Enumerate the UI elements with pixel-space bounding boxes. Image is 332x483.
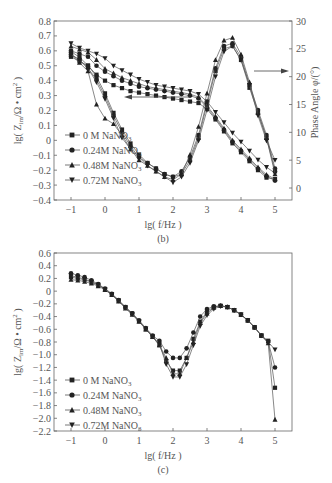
y-tick-label: −1.6 xyxy=(33,387,51,398)
y-tick-label: 0 xyxy=(46,286,51,297)
circle-marker xyxy=(273,365,278,370)
circle-marker xyxy=(205,307,210,312)
legend-item: 0.48M NaNO3 xyxy=(65,160,142,173)
y-right-tick-label: 20 xyxy=(296,71,306,82)
x-tick-label: 0 xyxy=(103,204,108,215)
series-line xyxy=(71,276,275,377)
y-tick-label: 0 xyxy=(46,135,51,146)
y-tick-label: −0.2 xyxy=(33,165,51,176)
triangle-up-marker xyxy=(205,91,210,96)
triangle-down-marker xyxy=(69,41,74,46)
y-tick-label: −0.6 xyxy=(33,324,51,335)
x-axis-label: lg( f/Hz ) xyxy=(144,219,181,231)
figure-caption: (c) xyxy=(157,464,168,476)
x-axis-label: lg( f/Hz ) xyxy=(144,450,181,462)
y-tick-label: −0.4 xyxy=(33,311,51,322)
figure-canvas: −10123450.80.70.60.50.40.30.20.10−0.1−0.… xyxy=(0,0,332,483)
series-triangle-down xyxy=(69,41,278,176)
square-marker xyxy=(111,83,115,87)
legend-label: 0.48M NaNO3 xyxy=(83,160,142,173)
square-marker xyxy=(196,101,200,105)
y-tick-label: 0.8 xyxy=(39,16,52,27)
square-marker xyxy=(128,89,132,93)
y-tick-label: 0.4 xyxy=(39,75,52,86)
legend-item: 0.24M NaNO3 xyxy=(65,145,142,158)
series-line xyxy=(71,43,275,177)
triangle-down-marker xyxy=(179,175,184,180)
circle-marker xyxy=(69,392,74,397)
triangle-down-marker xyxy=(128,73,133,78)
legend-label: 0.72M NaNO3 xyxy=(83,175,142,188)
triangle-up-marker xyxy=(213,57,218,62)
x-tick-label: 3 xyxy=(205,204,210,215)
legend-item: 0.72M NaNO3 xyxy=(65,420,142,433)
circle-marker xyxy=(69,147,74,152)
x-tick-label: 5 xyxy=(273,435,278,446)
triangle-up-marker xyxy=(120,75,125,80)
y-tick-label: −2.0 xyxy=(33,413,51,424)
chart-b: −10123450.80.70.60.50.40.30.20.10−0.1−0.… xyxy=(11,16,321,246)
x-tick-label: 4 xyxy=(239,435,244,446)
square-marker xyxy=(137,91,141,95)
y-right-axis-label: Phase Angle φ/(°) xyxy=(309,67,321,138)
triangle-up-marker xyxy=(103,116,108,121)
circle-marker xyxy=(171,356,176,361)
y-tick-label: 0.2 xyxy=(39,273,52,284)
y-tick-label: −0.2 xyxy=(33,298,51,309)
triangle-down-marker xyxy=(273,348,278,353)
y-right-tick-label: 25 xyxy=(296,43,306,54)
legend-item: 0.24M NaNO3 xyxy=(65,390,142,403)
y-tick-label: −0.4 xyxy=(33,195,51,206)
legend-label: 0.24M NaNO3 xyxy=(83,390,142,403)
y-tick-label: 0.6 xyxy=(39,248,52,259)
square-marker xyxy=(103,79,107,83)
legend-item: 0 M NaNO3 xyxy=(65,375,132,388)
triangle-up-marker xyxy=(111,71,116,76)
y-axis-label: lg( Zim/Ω • cm2 ) xyxy=(11,308,25,375)
y-tick-label: 0.6 xyxy=(39,45,52,56)
x-tick-label: 3 xyxy=(205,435,210,446)
y-tick-label: 0.5 xyxy=(39,60,52,71)
x-tick-label: 0 xyxy=(103,435,108,446)
legend-label: 0 M NaNO3 xyxy=(83,130,132,143)
y-tick-label: 0.2 xyxy=(39,105,52,116)
triangle-down-marker xyxy=(184,362,189,367)
y-tick-label: 0.4 xyxy=(39,260,52,271)
square-marker xyxy=(273,386,277,390)
series-line xyxy=(71,273,275,367)
triangle-up-marker xyxy=(94,102,99,107)
y-tick-label: −1.4 xyxy=(33,375,51,386)
triangle-down-marker xyxy=(120,68,125,73)
y-right-tick-label: 0 xyxy=(296,183,301,194)
square-marker xyxy=(70,378,75,383)
square-marker xyxy=(70,133,75,138)
y-tick-label: 0.7 xyxy=(39,30,52,41)
circle-marker xyxy=(191,330,196,335)
y-axis-label: lg( Zim/Ω • cm2 ) xyxy=(11,77,25,144)
circle-marker xyxy=(198,314,203,319)
x-tick-label: −1 xyxy=(66,204,77,215)
triangle-up-marker xyxy=(196,124,201,129)
circle-marker xyxy=(86,55,91,60)
y-tick-label: 0.1 xyxy=(39,120,52,131)
legend-label: 0 M NaNO3 xyxy=(83,375,132,388)
y-tick-label: −1.0 xyxy=(33,349,51,360)
y-tick-label: −1.8 xyxy=(33,400,51,411)
y-right-tick-label: 15 xyxy=(296,99,306,110)
square-marker xyxy=(179,98,183,102)
y-tick-label: −0.8 xyxy=(33,337,51,348)
y-tick-label: −0.1 xyxy=(33,150,51,161)
x-tick-label: 2 xyxy=(171,435,176,446)
square-marker xyxy=(120,86,124,90)
x-tick-label: 2 xyxy=(171,204,176,215)
y-right-tick-label: 30 xyxy=(296,16,306,27)
y-tick-label: 0.3 xyxy=(39,90,52,101)
circle-marker xyxy=(184,346,189,351)
legend-label: 0.48M NaNO3 xyxy=(83,405,142,418)
circle-marker xyxy=(178,356,183,361)
y-right-tick-label: 10 xyxy=(296,127,306,138)
arrow-right-icon xyxy=(281,69,289,74)
legend-item: 0 M NaNO3 xyxy=(65,130,132,143)
legend-label: 0.72M NaNO3 xyxy=(83,420,142,433)
x-tick-label: 5 xyxy=(273,204,278,215)
